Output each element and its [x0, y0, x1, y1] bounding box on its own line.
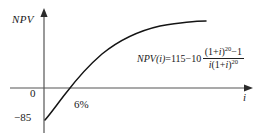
- npv-curve: [45, 21, 206, 120]
- npv-chart-figure: NPV i 0 −85 6% NPV(i)=115−10 (1+i)20−1 i…: [0, 0, 272, 139]
- x-root-label: 6%: [74, 99, 89, 110]
- equation-coefficient: 10: [191, 53, 201, 64]
- numerator-open-paren: (1+: [205, 46, 219, 57]
- y-tick-zero-label: 0: [30, 88, 36, 99]
- x-axis-label: i: [243, 92, 246, 103]
- denominator-exponent: 20: [232, 57, 239, 64]
- denominator-open-paren: (1+: [211, 59, 225, 70]
- equation-left-hand-side: NPV(i): [137, 53, 165, 64]
- equation-constant-term: 115: [171, 53, 186, 64]
- y-intercept-label: −85: [14, 112, 31, 123]
- y-axis-label: NPV: [12, 14, 34, 25]
- equation-fraction: (1+i)20−1 i(1+i)20: [203, 47, 244, 70]
- fraction-denominator: i(1+i)20: [207, 59, 240, 70]
- y-axis-arrowhead: [40, 8, 47, 17]
- npv-equation-annotation: NPV(i)=115−10 (1+i)20−1 i(1+i)20: [137, 47, 244, 70]
- numerator-tail: −1: [231, 46, 242, 57]
